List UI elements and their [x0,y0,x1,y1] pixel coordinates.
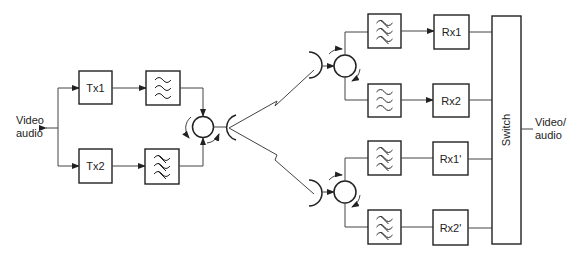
tx2-filter [145,149,179,184]
svg-text:audio: audio [535,129,562,141]
tx2-block: Tx2 [79,149,112,183]
rx2-block: Rx2 [433,84,469,117]
svg-text:Video/: Video/ [535,116,567,128]
svg-text:Tx1: Tx1 [86,82,104,94]
input-wires [46,88,79,166]
rx-circulator-upper [329,32,368,100]
dish-antenna-icon [227,115,236,140]
dish-antenna-icon [309,52,322,78]
svg-text:Rx1: Rx1 [442,26,462,38]
rx1prime-block: Rx1' [433,142,468,175]
rx1-block: Rx1 [434,15,469,49]
tx-antenna [227,115,236,140]
svg-text:Tx2: Tx2 [86,160,104,172]
svg-text:Rx1': Rx1' [440,153,462,165]
rx2-filter [368,84,401,117]
rx2prime-block: Rx2' [433,210,468,245]
svg-text:audio: audio [16,127,43,139]
tx-circulator [186,117,226,144]
input-label: Video audio [16,114,44,139]
svg-text:Switch: Switch [500,114,512,146]
rx1prime-filter [368,141,401,175]
rx-antenna-upper [309,52,334,78]
rx-circulator-lower [329,158,368,227]
switch-block: Switch [492,16,521,244]
rx2prime-filter [368,210,401,244]
diversity-transmission-diagram: Video audio Tx1 Tx2 [0,0,581,260]
dish-antenna-icon [309,180,322,206]
output-label: Video/ audio [535,116,567,141]
svg-text:Rx2: Rx2 [441,95,461,107]
zigzag-radio-path-icon [229,70,314,194]
svg-text:Rx2': Rx2' [440,222,462,234]
svg-text:Video: Video [16,114,44,126]
rx1-filter [368,14,401,48]
tx1-filter [146,71,180,105]
tx1-block: Tx1 [79,71,112,104]
